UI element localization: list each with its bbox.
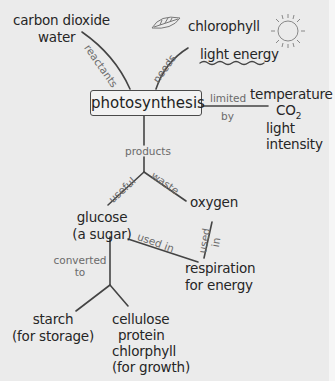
to-label: to: [52, 266, 108, 278]
product-oxygen: oxygen: [190, 194, 238, 210]
respiration: respiration: [185, 260, 255, 276]
converted-label: converted: [52, 254, 108, 266]
products-label: products: [125, 145, 171, 157]
leaf-icon: [152, 17, 180, 28]
growth-note: (for growth): [112, 359, 190, 375]
limit-intensity: intensity: [266, 136, 323, 152]
sun-icon: [271, 14, 305, 48]
central-topic-photosynthesis: photosynthesis: [90, 90, 202, 116]
need-chlorophyll: chlorophyll: [188, 18, 260, 34]
by-label: by: [221, 110, 234, 122]
product-glucose-note: (a sugar): [58, 226, 146, 242]
need-light-energy: light energy: [200, 46, 279, 62]
limit-light: light: [266, 120, 295, 136]
starch-branch: [76, 285, 110, 311]
starch-note: (for storage): [6, 328, 100, 344]
reactant-water: water: [38, 29, 75, 45]
growth-protein: protein: [118, 327, 165, 343]
respiration-note: for energy: [185, 277, 253, 293]
limited-label: limited: [210, 92, 246, 104]
growth-branch: [110, 285, 128, 306]
reactant-carbon-dioxide: carbon dioxide: [13, 12, 110, 28]
limit-temperature: temperature: [250, 86, 333, 102]
growth-chlorphyll: chlorphyll: [112, 343, 176, 359]
starch: starch: [18, 311, 88, 327]
product-glucose: glucose: [62, 209, 142, 225]
in-label-oxygen: in: [209, 237, 222, 249]
growth-cellulose: cellulose: [112, 311, 169, 327]
